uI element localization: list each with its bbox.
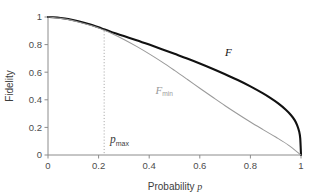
y-axis-tick-label: 0.2: [29, 122, 42, 133]
y-axis-tick-label: 0: [37, 149, 42, 160]
x-axis-title-prefix: Probability: [148, 181, 197, 192]
x-axis-title: Probability p: [148, 181, 202, 192]
x-axis-tick-label: 0.4: [143, 160, 156, 171]
annotation-subscript: max: [116, 140, 130, 147]
x-axis-tick-label: 0.6: [193, 160, 206, 171]
y-axis-tick-label: 1: [37, 11, 42, 22]
x-axis-tick-label: 0.2: [92, 160, 105, 171]
y-axis-tick-label: 0.4: [29, 94, 42, 105]
curve-label-main: F: [224, 46, 232, 58]
x-axis-tick-label: 0.8: [244, 160, 257, 171]
curve-label-text: F: [224, 46, 232, 58]
y-axis-tick-label: 0.6: [29, 67, 42, 78]
curve-label-subscript: min: [162, 90, 173, 97]
figure-container: 00.20.40.60.8100.20.40.60.81 FFmin pmax …: [0, 0, 322, 196]
y-axis-tick-label: 0.8: [29, 39, 42, 50]
x-axis-tick-label: 0: [45, 160, 50, 171]
fidelity-vs-probability-chart: 00.20.40.60.8100.20.40.60.81 FFmin pmax …: [0, 0, 322, 196]
x-axis-tick-label: 1: [298, 160, 303, 171]
curve-label-f: F: [224, 46, 232, 58]
x-axis-title-variable: p: [196, 181, 202, 192]
y-axis-title: Fidelity: [4, 70, 15, 102]
